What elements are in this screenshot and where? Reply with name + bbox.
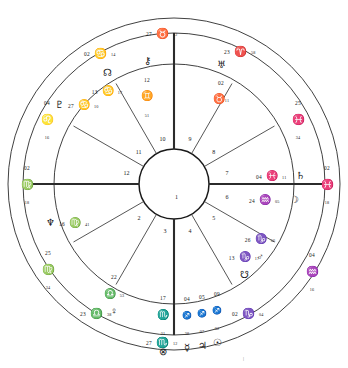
cusp-label-2: 04 ♒ 16 <box>300 244 324 294</box>
natal-chart-wheel: 1 2 3 4 5 6 7 8 9 10 11 12 27 ♉ 12 23 ♈ … <box>0 0 348 368</box>
cusp-2-minute: 16 <box>310 287 315 292</box>
cusp-label-asc: 02 ♓ 18 <box>315 157 339 207</box>
pluto-degree: 27 <box>68 103 74 109</box>
uranus-sign: ♉ <box>213 93 225 104</box>
cusp-label-dsc: 02 ♍ 18 <box>15 157 39 207</box>
placement-neptune: ♆ 16 ♍ 41 <box>46 212 90 230</box>
moon-degree: 24 <box>249 198 255 204</box>
chiron-icon: ⚷ <box>144 56 151 66</box>
cusp-8-sign: ♌ <box>41 114 54 125</box>
cusp-label-6: 25 ♍ 34 <box>36 242 60 292</box>
north-node-sign: ♋ <box>102 85 114 96</box>
house-number-11: 11 <box>136 149 142 155</box>
placement-venus: 22 ♎ 53 ♀ <box>96 265 132 318</box>
moon-minute: 05 <box>275 199 280 204</box>
placement-saturn: 04 ♓ 11 ♄ <box>256 165 305 183</box>
sun-minute: 02 <box>215 326 220 331</box>
placement-sun: 09 ♐ 02 ☉ <box>208 283 226 350</box>
sun-degree: 09 <box>214 291 220 297</box>
house-number-3: 3 <box>164 228 167 234</box>
house-number-5: 5 <box>212 215 215 221</box>
neptune-sign: ♍ <box>69 217 81 228</box>
center-circle <box>139 149 209 219</box>
cusp-dsc-degree: 02 <box>24 165 30 171</box>
neptune-degree: 16 <box>59 221 65 227</box>
cusp-dsc-sign: ♍ <box>21 179 34 190</box>
cusp-dsc-minute: 18 <box>25 200 30 205</box>
pluto-minute: 10 <box>94 104 99 109</box>
placement-north-node: ☊ 13 ♋ 17 <box>84 62 130 97</box>
placement-moon: 24 ♒ 05 ☽ <box>249 189 299 207</box>
mercury-icon: ☿ <box>184 343 190 353</box>
house-number-4: 4 <box>189 228 192 234</box>
house-number-7: 7 <box>226 170 229 176</box>
chiron-degree: 12 <box>144 77 150 83</box>
cusp-3-minute: 04 <box>259 312 264 317</box>
house-number-10: 10 <box>159 136 165 142</box>
cusp-5-degree: 23 <box>80 311 86 317</box>
house-number-9: 9 <box>189 136 192 142</box>
house-number-6: 6 <box>226 194 229 200</box>
cusp-label-mc: 27 ♉ 12 <box>146 22 178 40</box>
chiron-minute: 51 <box>145 113 150 118</box>
jupiter-degree: 05 <box>199 294 205 300</box>
venus-minute: 53 <box>120 293 125 298</box>
mars-sign: ♑ <box>255 233 267 244</box>
house-number-12: 12 <box>124 170 130 176</box>
chiron-sign: ♊ <box>141 90 153 101</box>
house-number-8: 8 <box>212 149 215 155</box>
mars-minute: 56 <box>271 238 276 243</box>
cusp-6-minute: 34 <box>46 285 51 290</box>
cusp-9-sign: ♋ <box>94 48 107 59</box>
venus-degree: 22 <box>111 274 117 280</box>
cusp-12-degree: 25 <box>295 100 301 106</box>
jupiter-sign: ♐ <box>197 309 207 318</box>
south-node-icon: ☋ <box>240 270 249 280</box>
cusp-asc-degree: 02 <box>324 165 330 171</box>
cusp-3-sign: ♑ <box>242 308 255 319</box>
house-number-2: 2 <box>137 215 140 221</box>
cusp-6-degree: 25 <box>45 250 51 256</box>
uranus-minute: 11 <box>225 98 229 103</box>
cusp-9-degree: 02 <box>84 51 90 57</box>
placement-chiron: ⚷ 12 ♊ 51 <box>134 50 160 120</box>
cusp-label-3: 02 ♑ 04 <box>232 302 264 320</box>
cusp-12-sign: ♓ <box>292 114 305 125</box>
sun-icon: ☉ <box>213 338 222 348</box>
cusp-8-minute: 16 <box>45 135 50 140</box>
south-node-degree: 13 <box>229 255 235 261</box>
fortune-minute: 21 <box>161 331 166 336</box>
fortune-sign: ♏ <box>157 309 169 320</box>
cusp-asc-minute: 18 <box>325 200 330 205</box>
cusp-2-sign: ♒ <box>306 266 319 277</box>
north-node-icon: ☊ <box>103 68 112 78</box>
mercury-sign: ♐ <box>182 311 192 320</box>
saturn-sign: ♓ <box>266 170 278 181</box>
mercury-minute: 38 <box>185 331 190 336</box>
venus-sign: ♎ <box>104 288 116 299</box>
cusp-8-degree: 04 <box>44 100 50 106</box>
cusp-line-8 <box>74 126 144 167</box>
mercury-degree: 04 <box>184 296 190 302</box>
placement-fortune: 17 ♏ 21 ⊗ <box>150 286 176 358</box>
jupiter-minute: 07 <box>200 329 205 334</box>
saturn-degree: 04 <box>256 174 262 180</box>
cusp-6-sign: ♍ <box>42 264 55 275</box>
saturn-minute: 11 <box>282 175 286 180</box>
cusp-mc-degree: 27 <box>146 31 152 37</box>
neptune-icon: ♆ <box>46 218 55 228</box>
placement-mars: 26 ♑ 56 ♂ <box>236 228 284 263</box>
cusp-3-degree: 02 <box>232 311 238 317</box>
cusp-line-12 <box>204 126 274 167</box>
venus-icon: ♀ <box>110 306 117 316</box>
north-node-minute: 17 <box>118 90 123 95</box>
cusp-label-9: 02 ♋ 14 <box>84 42 116 60</box>
cusp-mc-minute: 12 <box>173 32 178 37</box>
pluto-icon: ♇ <box>55 100 64 110</box>
sun-sign: ♐ <box>212 306 222 315</box>
moon-sign: ♒ <box>259 194 271 205</box>
cusp-12-minute: 34 <box>296 135 301 140</box>
cusp-label-12: 25 ♓ 34 <box>287 92 309 142</box>
cusp-9-minute: 14 <box>111 52 116 57</box>
pluto-sign: ♋ <box>78 99 90 110</box>
